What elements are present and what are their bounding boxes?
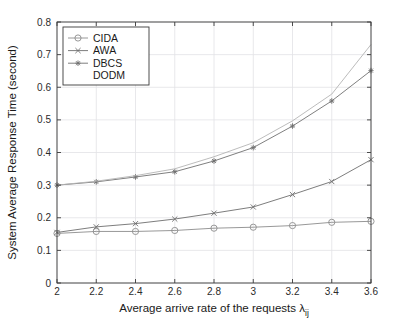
y-tick-label: 0.1 bbox=[37, 245, 51, 256]
y-tick-label: 0.4 bbox=[37, 147, 51, 158]
legend-label: CIDA bbox=[93, 32, 118, 44]
y-tick-labels: 00.10.20.30.40.50.60.70.8 bbox=[37, 17, 51, 289]
legend-label: AWA bbox=[93, 44, 116, 56]
data-point-marker bbox=[75, 60, 80, 66]
x-axis-label: Average arrive rate of the requests λij bbox=[119, 302, 309, 318]
y-tick-label: 0.8 bbox=[37, 17, 51, 28]
data-point-marker bbox=[94, 179, 99, 185]
x-tick-label: 2.8 bbox=[207, 286, 221, 297]
data-point-marker bbox=[211, 158, 216, 164]
x-tick-label: 2 bbox=[54, 286, 60, 297]
x-tick-label: 2.6 bbox=[168, 286, 182, 297]
x-tick-labels: 22.22.42.62.833.23.43.6 bbox=[54, 286, 378, 297]
legend-label: DODM bbox=[93, 69, 125, 81]
x-tick-label: 3.2 bbox=[286, 286, 300, 297]
y-tick-label: 0.5 bbox=[37, 114, 51, 125]
y-tick-label: 0 bbox=[45, 278, 51, 289]
legend-label: DBCS bbox=[93, 57, 122, 69]
y-tick-label: 0.3 bbox=[37, 180, 51, 191]
data-point-marker bbox=[290, 123, 295, 129]
y-tick-label: 0.6 bbox=[37, 82, 51, 93]
legend-item-dodm[interactable]: DODM bbox=[93, 69, 125, 81]
x-tick-label: 2.2 bbox=[89, 286, 103, 297]
y-tick-label: 0.7 bbox=[37, 49, 51, 60]
x-tick-label: 3.6 bbox=[364, 286, 378, 297]
data-point-marker bbox=[329, 98, 334, 104]
line-chart: 22.22.42.62.833.23.43.6 00.10.20.30.40.5… bbox=[0, 0, 393, 327]
chart-legend: CIDAAWADBCSDODM bbox=[63, 27, 149, 85]
data-point-marker bbox=[251, 145, 256, 151]
x-tick-label: 3.4 bbox=[325, 286, 339, 297]
chart-figure: 22.22.42.62.833.23.43.6 00.10.20.30.40.5… bbox=[0, 0, 393, 327]
y-tick-label: 0.2 bbox=[37, 212, 51, 223]
x-tick-label: 2.4 bbox=[129, 286, 143, 297]
x-tick-label: 3 bbox=[250, 286, 256, 297]
y-axis-label: System Average Response Time (second) bbox=[6, 45, 18, 260]
data-point-marker bbox=[172, 169, 177, 175]
